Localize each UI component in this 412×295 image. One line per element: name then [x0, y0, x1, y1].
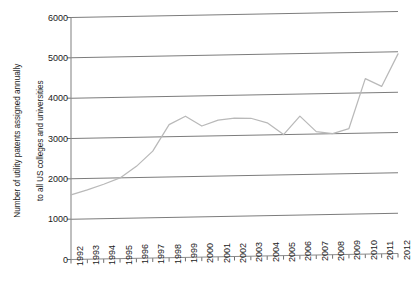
- grid-line: [71, 52, 398, 58]
- x-axis-tick-label: 1997: [156, 244, 166, 264]
- x-axis-tick-label: 1999: [189, 243, 199, 263]
- x-axis-tick-label: 2003: [254, 242, 264, 262]
- y-axis-title-line-1: Number of utility patents assigned annua…: [12, 12, 24, 270]
- x-axis-tick-label: 2004: [271, 242, 281, 262]
- x-axis-tick-label: 1994: [107, 245, 117, 265]
- x-axis-tick-label: 1998: [173, 244, 183, 264]
- grid-line: [71, 213, 398, 219]
- grid-line: [71, 133, 398, 139]
- grid-line: [71, 12, 398, 18]
- y-axis-tick-label: 6000: [34, 13, 68, 23]
- y-axis-tick-label: 4000: [34, 93, 68, 103]
- y-axis-tick-label: 5000: [34, 53, 68, 63]
- x-axis-tick-label: 1993: [91, 245, 101, 265]
- grid-lines: [71, 12, 398, 220]
- x-axis-tick-label: 2008: [336, 241, 346, 261]
- x-axis-tick-label: 1992: [75, 245, 85, 265]
- y-axis-tick-label: 3000: [34, 134, 68, 144]
- y-axis-tick-label: 2000: [34, 174, 68, 184]
- x-axis-tick-label: 2000: [205, 243, 215, 263]
- x-axis-tick-label: 2001: [222, 243, 232, 263]
- x-axis-tick-label: 1996: [140, 244, 150, 264]
- x-axis-tick-label: 2007: [320, 241, 330, 261]
- y-axis-tick-labels: 0100020003000400050006000: [34, 0, 68, 295]
- x-axis-tick-label: 2002: [238, 242, 248, 262]
- x-axis-tick-label: 1995: [124, 245, 134, 265]
- x-axis-tick-label: 2005: [287, 242, 297, 262]
- x-axis-tick-label: 2010: [369, 240, 379, 260]
- x-axis-tick-label: 2012: [402, 239, 412, 259]
- x-axis-tick-labels: 1992199319941995199619971998199920002001…: [0, 262, 406, 295]
- x-axis-tick-label: 2009: [352, 240, 362, 260]
- x-axis-tick-label: 2011: [385, 240, 395, 259]
- grid-line: [71, 92, 398, 98]
- y-axis-tick-label: 1000: [34, 214, 68, 224]
- x-axis-tick-label: 2006: [303, 241, 313, 261]
